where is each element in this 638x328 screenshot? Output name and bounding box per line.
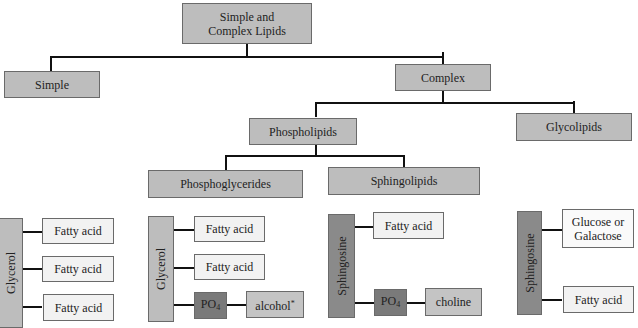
glycerol-label-phosphoglyceride: Glycerol [154, 248, 168, 290]
node-sphingolipids-label: Sphingolipids [371, 174, 438, 188]
connector-po4-choline [407, 302, 426, 304]
fatty-acid-label: Fatty acid [55, 301, 103, 315]
fatty-acid-sl: Fatty acid [373, 212, 444, 239]
phosphate-label: PO4 [201, 297, 220, 315]
connector-level2-horizontal [315, 102, 575, 104]
glycerol-backbone-phosphoglyceride: Glycerol [148, 216, 174, 322]
glycerol-label-simple: Glycerol [4, 252, 18, 294]
node-root: Simple and Complex Lipids [182, 3, 312, 44]
connector-sphingolipids-down [403, 155, 405, 167]
fatty-acid-pg-1: Fatty acid [194, 216, 265, 242]
phosphate-label: PO4 [381, 294, 400, 312]
connector-glycolipids-down [573, 101, 575, 113]
fatty-acid-gl: Fatty acid [563, 286, 634, 313]
node-glycolipids-label: Glycolipids [546, 120, 602, 134]
connector-simple-fa2 [23, 268, 42, 270]
node-phosphoglycerides: Phosphoglycerides [148, 170, 303, 198]
connector-simple-fa3 [23, 306, 42, 308]
sphingosine-label-glycolipid: Sphingosine [523, 233, 537, 292]
fatty-acid-simple-3: Fatty acid [43, 294, 114, 321]
node-sphingolipids: Sphingolipids [328, 167, 480, 195]
node-phosphoglycerides-label: Phosphoglycerides [180, 177, 271, 191]
connector-gl-fa [542, 299, 562, 301]
fatty-acid-simple-2: Fatty acid [42, 256, 114, 282]
connector-pg-po4 [174, 304, 194, 306]
alcohol-label: alcohol* [255, 297, 294, 313]
alcohol-box: alcohol* [246, 291, 304, 318]
connector-phosphoglycerides-down [225, 155, 227, 170]
fatty-acid-label: Fatty acid [206, 260, 254, 274]
fatty-acid-label: Fatty acid [385, 219, 433, 233]
fatty-acid-label: Fatty acid [575, 293, 623, 307]
sphingosine-label-sphingolipid: Sphingosine [335, 236, 349, 295]
fatty-acid-pg-2: Fatty acid [194, 254, 265, 280]
phosphate-sl: PO4 [374, 289, 407, 316]
connector-level3-horizontal [225, 155, 405, 157]
connector-simple-fa1 [23, 231, 42, 233]
fatty-acid-label: Fatty acid [206, 222, 254, 236]
choline-box: choline [425, 288, 482, 316]
node-phospholipids-label: Phospholipids [269, 125, 337, 139]
connector-phospholipids-down [315, 102, 317, 117]
sugar-label-line2: Galactose [574, 229, 621, 243]
node-simple: Simple [4, 71, 100, 98]
phosphate-pg: PO4 [194, 292, 227, 319]
connector-gl-sugar [542, 229, 562, 231]
sphingosine-backbone-glycolipid: Sphingosine [517, 211, 542, 315]
node-complex-label: Complex [421, 71, 465, 85]
sugar-label-line1: Glucose or [572, 215, 624, 229]
connector-complex-down [442, 52, 444, 64]
node-phospholipids: Phospholipids [249, 118, 357, 145]
node-root-label: Simple and Complex Lipids [183, 10, 311, 38]
connector-pg-fa2 [174, 267, 194, 269]
choline-label: choline [436, 295, 471, 309]
connector-sl-fa [355, 226, 374, 228]
connector-po4-alcohol [227, 304, 246, 306]
glycerol-backbone-simple: Glycerol [0, 218, 23, 328]
fatty-acid-simple-1: Fatty acid [42, 218, 114, 244]
sphingosine-backbone-sphingolipid: Sphingosine [328, 214, 355, 318]
connector-simple-down [50, 56, 52, 71]
node-complex: Complex [395, 64, 491, 91]
connector-level1-horizontal [50, 56, 444, 58]
connector-phospholipids-stem [315, 145, 317, 155]
node-simple-label: Simple [35, 78, 69, 92]
node-glycolipids: Glycolipids [516, 113, 632, 141]
connector-pg-fa1 [174, 229, 194, 231]
connector-sl-po4 [355, 302, 374, 304]
sugar-box: Glucose or Galactose [562, 209, 634, 248]
fatty-acid-label: Fatty acid [54, 224, 102, 238]
fatty-acid-label: Fatty acid [54, 262, 102, 276]
